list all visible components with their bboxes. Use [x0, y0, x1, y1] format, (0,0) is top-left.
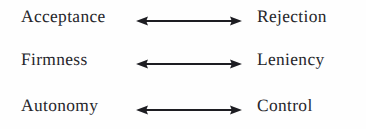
right-pole-label: Rejection [257, 7, 327, 26]
left-pole-label: Autonomy [21, 96, 98, 115]
dimension-row: Firmness Leniency [0, 43, 366, 86]
right-pole-label: Leniency [257, 50, 325, 69]
double-headed-arrow-icon [136, 101, 242, 119]
double-headed-arrow-icon [136, 12, 242, 30]
left-pole-label: Firmness [21, 50, 88, 69]
left-pole-label: Acceptance [21, 7, 106, 26]
right-pole-label: Control [257, 96, 313, 115]
dimension-row: Acceptance Rejection [0, 0, 366, 43]
bipolar-dimensions-figure: Acceptance Rejection Firmness Leniency A… [0, 0, 366, 129]
dimension-row: Autonomy Control [0, 87, 366, 129]
double-headed-arrow-icon [136, 55, 242, 73]
